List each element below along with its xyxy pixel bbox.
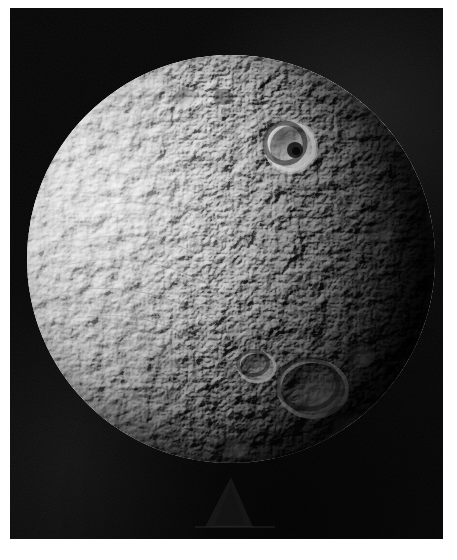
photograph-frame bbox=[0, 0, 457, 560]
moon-disk bbox=[27, 55, 435, 463]
moon-layer bbox=[10, 8, 443, 539]
prominent-ring-crater-group bbox=[264, 120, 318, 174]
moon-crater-overlay bbox=[27, 55, 435, 463]
groove-lines-group bbox=[61, 202, 219, 351]
twin-crater-pair-group bbox=[238, 351, 276, 383]
photo-plate bbox=[10, 8, 443, 539]
print-bottom-margin bbox=[0, 539, 457, 560]
